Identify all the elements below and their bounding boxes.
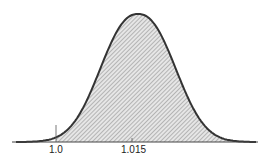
tick-label-1-015: 1.015 [121, 144, 146, 155]
shaded-area [16, 14, 256, 142]
tick-label-1-0: 1.0 [49, 144, 63, 155]
normal-curve-chart [0, 0, 271, 160]
